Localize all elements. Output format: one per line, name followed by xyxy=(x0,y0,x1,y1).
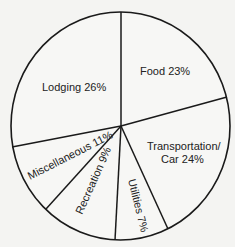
pie-chart: Food 23% Lodging 26% Transportation/ Car… xyxy=(0,0,235,247)
slice-label-transport-line2: Car 24% xyxy=(161,153,204,165)
slice-label-transport-line1: Transportation/ xyxy=(147,140,222,152)
slice-label-food: Food 23% xyxy=(140,65,190,77)
slice-label-lodging: Lodging 26% xyxy=(42,81,106,93)
